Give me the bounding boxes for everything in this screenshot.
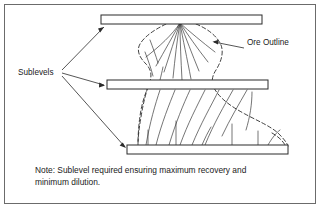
note-line-1: Note: Sublevel required ensuring maximum…: [35, 165, 247, 175]
note-line-2: minimum dilution.: [35, 177, 100, 187]
diagram-canvas: Sublevels Ore Outline Note: Sublevel req…: [0, 0, 323, 210]
ore-outline-label: Ore Outline: [247, 38, 289, 47]
sublevel-stoping-diagram: Sublevels Ore Outline Note: Sublevel req…: [0, 0, 323, 210]
sublevels-label: Sublevels: [18, 68, 54, 77]
bottom-sublevel-bar: [127, 145, 288, 154]
middle-sublevel-bar: [107, 80, 268, 89]
top-sublevel-bar: [101, 15, 262, 24]
